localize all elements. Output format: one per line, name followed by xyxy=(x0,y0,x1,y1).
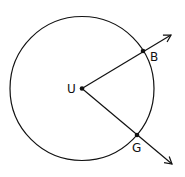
point-u xyxy=(80,86,85,91)
label-u: U xyxy=(67,82,76,96)
label-b: B xyxy=(150,50,158,64)
point-g xyxy=(135,133,140,138)
circle-diagram: U B G xyxy=(0,0,185,177)
ray-ug xyxy=(82,89,172,165)
label-g: G xyxy=(132,141,141,155)
point-b xyxy=(141,49,146,54)
